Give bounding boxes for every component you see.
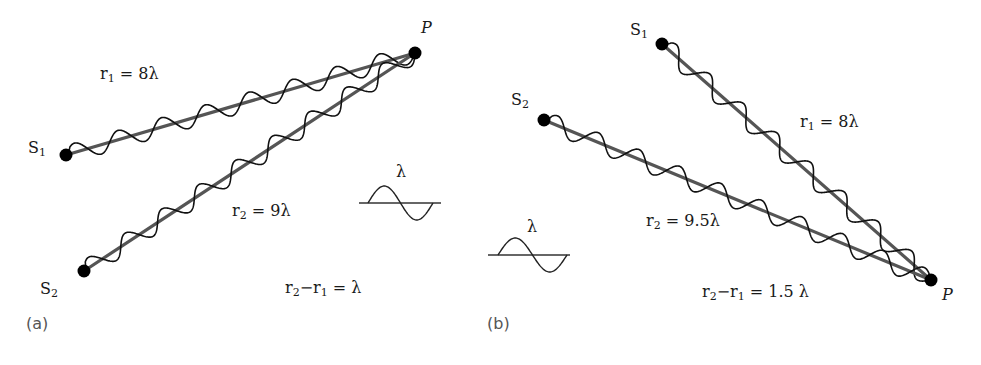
source-s1-label-b: S1 xyxy=(630,22,648,40)
path-r1-label-b: r1 = 8λ xyxy=(800,114,859,132)
interference-diagram: (a) P S1 S2 r1 = 8λ r2 = 9λ r2−r1 = λ λ … xyxy=(0,0,981,365)
diagram-canvas xyxy=(0,0,981,365)
point-p-dot-a xyxy=(409,47,422,60)
path-difference-label-a: r2−r1 = λ xyxy=(285,280,361,298)
point-p-label-b: P xyxy=(942,287,953,303)
source-dot-b-s1 xyxy=(656,38,669,51)
source-dot-a-s1 xyxy=(60,149,73,162)
path-r2-label-b: r2 = 9.5λ xyxy=(646,213,720,231)
source-s2-label-b: S2 xyxy=(511,92,529,110)
panel-label-b: (b) xyxy=(487,316,510,332)
ray-line-b-s2 xyxy=(544,120,931,280)
source-dot-a-s2 xyxy=(78,265,91,278)
path-r1-label-a: r1 = 8λ xyxy=(100,66,159,84)
point-p-label-a: P xyxy=(421,20,432,36)
point-p-dot-b xyxy=(925,274,938,287)
source-s1-label-a: S1 xyxy=(28,140,46,158)
source-s2-label-a: S2 xyxy=(40,281,58,299)
source-dot-b-s2 xyxy=(538,114,551,127)
path-r2-label-a: r2 = 9λ xyxy=(232,203,291,221)
path-difference-label-b: r2−r1 = 1.5 λ xyxy=(702,284,809,302)
wavelength-legend-symbol-b: λ xyxy=(527,219,537,235)
panel-label-a: (a) xyxy=(26,316,48,332)
wavelength-legend-symbol-a: λ xyxy=(396,164,406,180)
